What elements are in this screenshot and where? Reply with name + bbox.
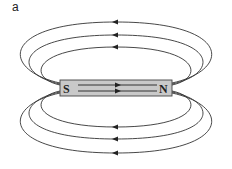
arrows-bottom — [112, 125, 118, 156]
arrow-left-icon — [112, 137, 118, 142]
field-line-top-middle — [29, 35, 203, 84]
field-line-bottom-middle — [29, 92, 203, 139]
magnet-body — [60, 80, 172, 96]
north-pole-label: N — [159, 82, 168, 96]
arrow-left-icon — [112, 45, 118, 50]
bar-magnet-field-diagram: S N — [0, 0, 232, 169]
field-lines-top — [20, 22, 211, 85]
arrow-left-icon — [112, 20, 118, 25]
field-line-top-inner — [41, 47, 191, 85]
arrow-left-icon — [112, 33, 118, 38]
arrow-left-icon — [112, 151, 118, 156]
arrows-top — [112, 20, 118, 50]
arrow-left-icon — [112, 125, 118, 130]
field-line-bottom-outer — [20, 93, 211, 153]
south-pole-label: S — [63, 82, 70, 96]
field-lines-bottom — [20, 91, 211, 153]
field-line-top-outer — [20, 22, 211, 83]
bar-magnet: S N — [60, 80, 172, 96]
